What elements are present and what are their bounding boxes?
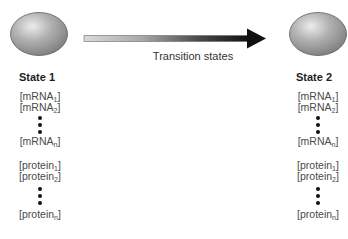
state-2-mrna-ellipsis-icon — [316, 116, 320, 137]
state-2-protein-n: [proteinn] — [278, 209, 348, 220]
state-1-mrna-2: [mRNA2] — [0, 102, 80, 113]
state-1-protein-ellipsis-icon — [38, 187, 42, 208]
state-2-mrna-2: [mRNA2] — [278, 102, 348, 113]
state-1-protein-2: [protein2] — [0, 171, 80, 182]
state-1-protein-n: [proteinn] — [0, 209, 80, 220]
state-2-protein-2: [protein2] — [278, 171, 348, 182]
transition-states-label: Transition states — [153, 50, 233, 62]
state-1-mrna-ellipsis-icon — [38, 116, 42, 137]
state-2-concentration-list: [mRNA1] [mRNA2] [mRNAn] [protein1] [prot… — [278, 0, 348, 239]
state-2-protein-ellipsis-icon — [316, 187, 320, 208]
transition-arrow-icon — [84, 29, 266, 49]
state-2-mrna-n: [mRNAn] — [278, 136, 348, 147]
state-1-mrna-n: [mRNAn] — [0, 136, 80, 147]
state-1-concentration-list: [mRNA1] [mRNA2] [mRNAn] [protein1] [prot… — [0, 0, 80, 239]
